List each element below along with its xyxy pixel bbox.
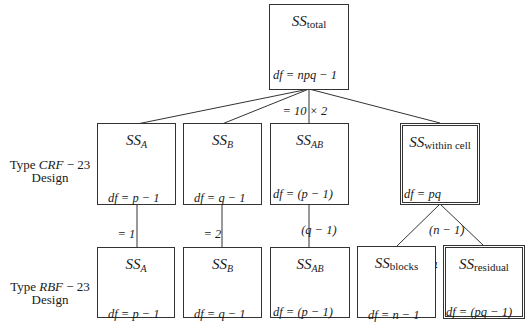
node-crf-ss-b: SSB df = q − 1 = 2: [183, 123, 262, 205]
node-rbf-ss-b: SSB df = q − 1 = 2: [183, 247, 262, 318]
node-ss-residual: SSresidual df = (pq − 1) (n − 1) = 45: [443, 245, 525, 319]
node-rbf-ss-ab: SSAB df = (p − 1) (q − 1) = 2: [270, 247, 350, 318]
node-title: SStotal: [270, 15, 348, 35]
node-ss-total: SStotal df = npq − 1 = 10 × 2 × 3 − 1 = …: [269, 4, 349, 90]
node-ss-within-cell: SSwithin cell df = pq (n − 1) = 54: [400, 123, 480, 205]
node-crf-ss-ab: SSAB df = (p − 1) (q − 1) = 2: [270, 123, 349, 205]
node-rbf-ss-a: SSA df = p − 1 = 1: [97, 247, 175, 318]
row-label-rbf-design: Type RBF − 23 Design: [4, 280, 96, 306]
node-crf-ss-a: SSA df = p − 1 = 1: [97, 123, 176, 205]
row-label-crf-design: Type CRF − 23 Design: [4, 158, 96, 184]
node-ss-blocks: SSblocks df = n − 1 = 9: [357, 246, 436, 318]
